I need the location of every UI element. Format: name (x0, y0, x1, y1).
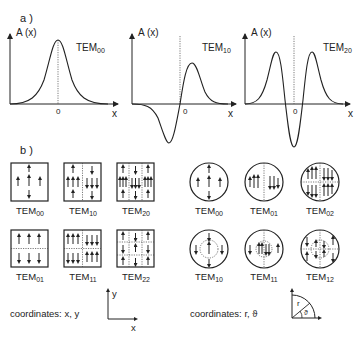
plot1-x-label: x (112, 108, 117, 119)
plot2-x-label: x (228, 108, 233, 119)
plot3-y-label: A (x) (251, 27, 272, 38)
rect-label-tem11: TEM11 (58, 271, 108, 283)
circ-label-tem11: TEM11 (239, 271, 289, 283)
rect-label-tem20: TEM20 (111, 205, 161, 217)
plot1-y-label: A (x) (16, 27, 37, 38)
diagram-graphics (0, 0, 361, 338)
plot1-origin: 0 (56, 107, 60, 116)
circ-coords-theta: ϑ (304, 309, 308, 316)
circ-mode-tem11 (245, 230, 283, 268)
plot2-y-label: A (x) (138, 27, 159, 38)
rect-mode-tem01 (11, 230, 48, 267)
circ-label-tem00: TEM00 (184, 205, 234, 217)
plot2-title: TEM10 (202, 42, 231, 54)
circ-mode-tem00 (190, 163, 228, 201)
circ-label-tem02: TEM02 (295, 205, 345, 217)
plot2-origin: 0 (183, 107, 187, 116)
rect-mode-tem22 (117, 230, 154, 267)
rect-mode-tem10 (64, 163, 101, 201)
rect-label-tem01: TEM01 (5, 271, 55, 283)
circ-mode-tem12 (301, 230, 339, 268)
circ-mode-tem10 (190, 230, 228, 268)
rect-label-tem00: TEM00 (5, 205, 55, 217)
circ-coords-text: coordinates: r, ϑ (190, 308, 258, 319)
rect-coords-x: x (131, 322, 136, 333)
plot1-title: TEM00 (76, 42, 105, 54)
circ-mode-tem01 (245, 163, 283, 201)
rect-mode-tem00 (11, 163, 48, 201)
rect-mode-tem20 (117, 163, 154, 201)
plot3-x-label: x (348, 108, 353, 119)
rect-label-tem10: TEM10 (58, 205, 108, 217)
rect-coords-text: coordinates: x, y (10, 308, 79, 319)
rect-coords-y: y (112, 288, 117, 299)
rect-mode-tem11 (64, 230, 101, 267)
circ-label-tem10: TEM10 (184, 271, 234, 283)
circ-label-tem01: TEM01 (239, 205, 289, 217)
plot3-title: TEM20 (323, 42, 352, 54)
part-b-label: b ) (20, 144, 33, 156)
plot3-origin: 0 (293, 107, 297, 116)
circ-label-tem12: TEM12 (295, 271, 345, 283)
rect-label-tem22: TEM22 (111, 271, 161, 283)
circ-mode-tem02 (301, 163, 339, 201)
circ-coords-r: r (297, 299, 300, 308)
